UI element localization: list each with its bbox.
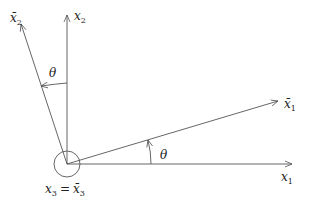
x2bar-axis bbox=[21, 24, 67, 164]
label-x1: x1 bbox=[281, 170, 293, 186]
svg-text:x3=x̄3: x3=x̄3 bbox=[45, 182, 85, 198]
label-theta-upper: θ bbox=[49, 66, 57, 80]
x1bar-axis bbox=[67, 101, 278, 164]
theta-arc-upper bbox=[41, 83, 67, 86]
svg-text:θ: θ bbox=[160, 148, 168, 162]
label-theta-lower: θ bbox=[160, 148, 168, 162]
theta-arc-lower bbox=[148, 140, 151, 164]
svg-text:x1: x1 bbox=[281, 170, 293, 186]
label-x2: x2 bbox=[74, 9, 86, 25]
label-x1bar: x̄1 bbox=[284, 97, 296, 113]
svg-text:x̄1: x̄1 bbox=[284, 97, 296, 113]
rotation-diagram: x̄2 x2 x̄1 x1 θ θ x3=x̄3 bbox=[0, 0, 310, 201]
svg-text:x2: x2 bbox=[74, 9, 86, 25]
svg-text:θ: θ bbox=[49, 66, 57, 80]
label-x3: x3=x̄3 bbox=[45, 182, 85, 198]
label-x2bar: x̄2 bbox=[10, 11, 22, 27]
svg-text:x̄2: x̄2 bbox=[10, 11, 22, 27]
